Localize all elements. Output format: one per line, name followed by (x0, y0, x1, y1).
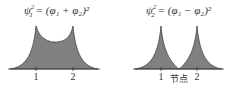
nucleus-label-1: 1 (159, 71, 164, 82)
node-label: 节点 (170, 72, 188, 85)
nucleus-label-2: 2 (195, 71, 200, 82)
antibonding-density-shape-2 (179, 26, 222, 69)
bonding-density-shape (10, 26, 98, 69)
antibonding-density-shape-1 (135, 26, 179, 69)
nucleus-label-1: 1 (34, 71, 39, 82)
nucleus-label-2: 2 (71, 71, 76, 82)
